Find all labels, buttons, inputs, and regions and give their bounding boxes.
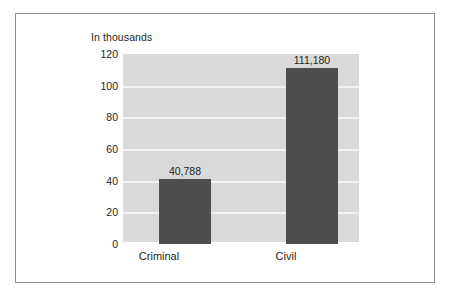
bar-value-label-civil: 111,180 — [294, 54, 330, 66]
bar-criminal[interactable] — [159, 179, 211, 244]
x-tick-label-criminal: Criminal — [139, 250, 179, 262]
y-tick-label-80: 80 — [106, 111, 118, 123]
y-tick-label-60: 60 — [106, 143, 118, 155]
y-tick-label-20: 20 — [106, 206, 118, 218]
y-axis: 120 100 80 60 40 20 0 — [76, 54, 118, 244]
chart-frame: In thousands 120 100 80 60 40 20 0 40,78… — [15, 13, 435, 283]
y-tick-label-120: 120 — [100, 48, 118, 60]
plot-area: 40,788 111,180 — [123, 54, 359, 244]
bar-civil[interactable] — [286, 68, 338, 244]
chart-subtitle: In thousands — [91, 31, 152, 43]
y-tick-label-100: 100 — [100, 80, 118, 92]
x-tick-label-civil: Civil — [276, 250, 297, 262]
y-tick-label-0: 0 — [112, 238, 118, 250]
bar-value-label-criminal: 40,788 — [169, 165, 201, 177]
y-tick-label-40: 40 — [106, 175, 118, 187]
